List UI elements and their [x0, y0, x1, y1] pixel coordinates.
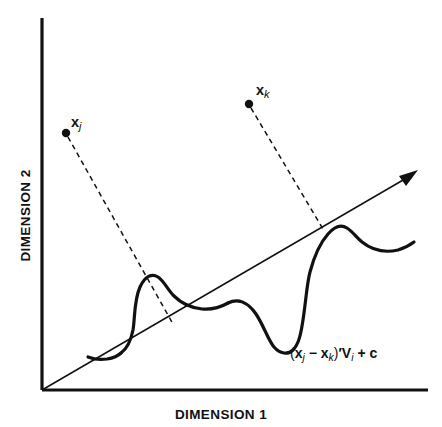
projection-axis-arrowhead — [399, 170, 418, 186]
formula-plus: + — [354, 345, 370, 361]
y-axis-label: DIMENSION 2 — [18, 136, 33, 296]
formula-x-second: x — [321, 345, 329, 361]
formula-c: c — [370, 345, 378, 361]
point-label-xk-sub: k — [264, 88, 270, 100]
density-curve-left — [121, 275, 228, 353]
formula-v: V — [342, 345, 351, 361]
projection-dashed-line-xk — [251, 108, 323, 229]
point-label-xj-sub: j — [79, 120, 81, 132]
diagram-svg — [0, 0, 442, 427]
projection-dashed-line-xj — [68, 137, 173, 324]
point-dot-xk — [245, 100, 253, 108]
point-label-xj: xj — [71, 114, 82, 132]
x-axis-label: DIMENSION 1 — [0, 407, 442, 422]
formula-minus: − — [305, 345, 321, 361]
point-label-xk-main: x — [256, 82, 264, 98]
point-label-xj-main: x — [71, 114, 79, 130]
figure-canvas: DIMENSION 1 DIMENSION 2 xj xk (xj − xk)′… — [0, 0, 442, 427]
point-dot-xj — [62, 129, 70, 137]
formula-annotation: (xj − xk)′Vi + c — [290, 345, 377, 363]
point-label-xk: xk — [256, 82, 270, 100]
density-curve-right — [228, 226, 414, 353]
